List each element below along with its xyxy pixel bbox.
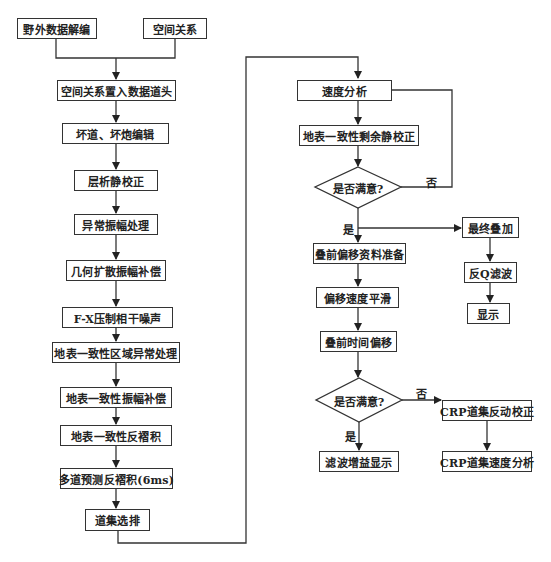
- box-label: 速度分析: [322, 83, 367, 99]
- box-label: 几何扩散振幅补偿: [71, 263, 161, 279]
- box-inverse-q: 反Q滤波: [464, 262, 517, 283]
- box-sc-regional-anomaly: 地表一致性区域异常处理: [52, 342, 180, 363]
- box-sc-residual-statics: 地表一致性剩余静校正: [299, 125, 419, 146]
- box-label: 空间关系: [153, 21, 198, 37]
- box-label: 地表一致性区域异常处理: [54, 345, 177, 361]
- box-label: F-X压制相干噪声: [74, 310, 161, 326]
- box-mig-velocity-smooth: 偏移速度平滑: [316, 287, 399, 308]
- box-label: 滤波增益显示: [325, 454, 392, 470]
- flowchart-canvas: 野外数据解编 空间关系 空间关系置入数据道头 坏道、坏炮编辑 层析静校正 异常振…: [0, 0, 551, 562]
- box-fx-noise: F-X压制相干噪声: [62, 307, 173, 328]
- box-abnormal-amp: 异常振幅处理: [74, 214, 158, 235]
- decision-2-label: 是否满意?: [334, 393, 384, 409]
- box-label: 野外数据解编: [23, 21, 90, 37]
- box-bad-trace-edit: 坏道、坏炮编辑: [62, 123, 169, 144]
- box-label: 反Q滤波: [469, 265, 512, 281]
- edge-label-yes-1: 是: [343, 221, 354, 237]
- box-sc-amp-comp: 地表一致性振幅补偿: [60, 387, 172, 408]
- box-gather-sort: 道集选排: [85, 509, 150, 531]
- box-tomo-statics: 层析静校正: [74, 170, 158, 191]
- box-filter-gain-display: 滤波增益显示: [319, 451, 399, 472]
- box-label: 叠前偏移资料准备: [315, 246, 405, 262]
- box-label: 地表一致性振幅补偿: [66, 390, 167, 406]
- box-multi-trace-decon: 多道预测反褶积(6ms): [60, 468, 173, 489]
- box-crp-nmo-reverse: CRP道集反动校正: [442, 400, 532, 421]
- box-field-data-decode: 野外数据解编: [17, 18, 97, 39]
- box-label: CRP道集反动校正: [440, 403, 534, 419]
- box-label: CRP道集速度分析: [440, 454, 534, 470]
- box-velocity-analysis: 速度分析: [297, 80, 392, 101]
- edge-label-yes-2: 是: [345, 428, 356, 444]
- box-label: 异常振幅处理: [82, 217, 149, 233]
- box-label: 空间关系置入数据道头: [61, 83, 173, 99]
- box-label: 地表一致性反褶积: [71, 428, 161, 444]
- edge-label-no-1: 否: [426, 174, 437, 190]
- box-label: 偏移速度平滑: [324, 290, 391, 306]
- box-label: 显示: [477, 306, 499, 322]
- box-label: 层析静校正: [88, 173, 144, 189]
- box-sc-decon: 地表一致性反褶积: [60, 425, 172, 446]
- box-label: 坏道、坏炮编辑: [76, 126, 154, 142]
- box-label: 地表一致性剩余静校正: [303, 128, 415, 144]
- box-label: 最终叠加: [468, 220, 513, 236]
- box-label: 多道预测反褶积(6ms): [59, 471, 174, 487]
- box-label: 道集选排: [95, 512, 140, 528]
- box-geo-spread-comp: 几何扩散振幅补偿: [66, 260, 166, 281]
- box-prestack-mig-prep: 叠前偏移资料准备: [313, 243, 406, 264]
- decision-1-label: 是否满意?: [333, 180, 383, 196]
- box-display: 显示: [467, 303, 510, 324]
- box-label: 叠前时间偏移: [325, 334, 392, 350]
- box-crp-velocity: CRP道集速度分析: [442, 451, 532, 472]
- box-spatial-to-header: 空间关系置入数据道头: [57, 80, 176, 101]
- box-spatial-relation: 空间关系: [143, 18, 207, 39]
- edge-label-no-2: 否: [416, 385, 427, 401]
- box-final-stack: 最终叠加: [462, 217, 519, 238]
- box-prestack-time-mig: 叠前时间偏移: [320, 331, 397, 352]
